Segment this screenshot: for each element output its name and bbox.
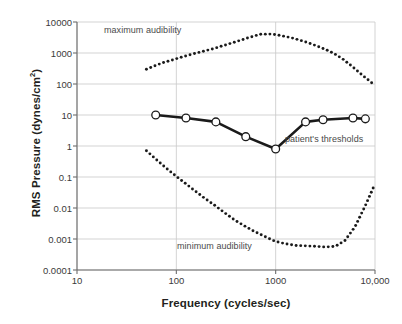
y-tick-label: 0.001 [24, 234, 72, 245]
audiogram-figure: RMS Pressure (dynes/cm2) 100001000100101… [0, 0, 402, 324]
threshold-marker [242, 133, 250, 141]
maximum-audibility-label: maximum audibility [104, 25, 181, 35]
threshold-marker [302, 118, 310, 126]
patient-thresholds-label: patient's thresholds [285, 134, 363, 144]
patient-thresholds-series [152, 111, 369, 153]
threshold-marker [319, 116, 327, 124]
x-tick-label: 10,000 [345, 275, 402, 286]
y-tick-label: 10 [24, 110, 72, 121]
x-tick-label: 100 [146, 275, 206, 286]
x-tick-label: 1000 [246, 275, 306, 286]
y-tick-label: 1000 [24, 48, 72, 59]
gridlines [77, 22, 375, 270]
y-tick-label: 0.0001 [24, 265, 72, 276]
y-tick-label: 0.01 [24, 203, 72, 214]
axes [73, 22, 375, 274]
minimum-audibility-curve [145, 149, 375, 248]
threshold-marker [152, 111, 160, 119]
minimum-audibility-label: minimum audibility [177, 241, 252, 251]
y-tick-label: 1 [24, 141, 72, 152]
x-axis-title: Frequency (cycles/sec) [77, 297, 375, 309]
threshold-marker [272, 145, 280, 153]
y-tick-label: 0.1 [24, 172, 72, 183]
maximum-audibility-curve [145, 33, 373, 84]
threshold-marker [212, 118, 220, 126]
threshold-marker [349, 114, 357, 122]
threshold-marker [182, 114, 190, 122]
y-tick-label: 100 [24, 79, 72, 90]
threshold-marker [361, 115, 369, 123]
x-axis-tick-labels: 10100100010,000 [0, 275, 402, 295]
y-tick-label: 10000 [24, 17, 72, 28]
x-tick-label: 10 [47, 275, 107, 286]
